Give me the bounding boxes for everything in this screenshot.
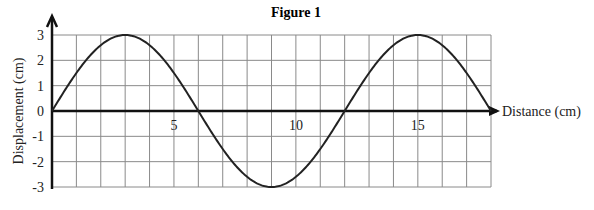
x-tick-label: 5 bbox=[170, 118, 177, 133]
x-tick-label: 15 bbox=[411, 118, 425, 133]
wave-chart: Figure 1 Distance (cm) Displacement (cm)… bbox=[0, 0, 594, 210]
x-axis-label: Distance (cm) bbox=[502, 104, 581, 120]
y-tick-label: 2 bbox=[37, 53, 44, 68]
y-tick-label: 1 bbox=[37, 79, 44, 94]
axes bbox=[47, 16, 500, 189]
chart-title: Figure 1 bbox=[271, 5, 321, 20]
y-tick-label: 3 bbox=[37, 28, 44, 43]
x-tick-label: 10 bbox=[289, 118, 303, 133]
y-tick-label: -2 bbox=[32, 155, 44, 170]
y-axis-label: Displacement (cm) bbox=[11, 57, 27, 164]
y-tick-label: 0 bbox=[37, 104, 44, 119]
x-tick-labels: 51015 bbox=[170, 118, 424, 133]
y-tick-labels: 3210-1-2-3 bbox=[32, 28, 44, 195]
y-tick-label: -3 bbox=[32, 180, 44, 195]
y-tick-label: -1 bbox=[32, 129, 44, 144]
